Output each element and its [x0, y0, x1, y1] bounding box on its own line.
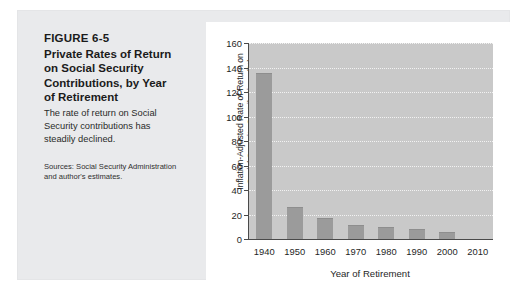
gridline — [249, 166, 493, 167]
figure-source: Sources: Social Security Administration … — [44, 162, 178, 183]
y-axis-tick-label: 100 — [226, 111, 242, 122]
gridline — [249, 190, 493, 191]
x-axis-tick-label: 1980 — [376, 246, 397, 257]
y-axis-tick-label: 0 — [237, 234, 242, 245]
plot-area: 020406080100120140160 194019501960197019… — [248, 43, 493, 240]
y-axis-tick-label: 20 — [232, 209, 242, 220]
figure-description: The rate of return on Social Security co… — [44, 107, 180, 147]
y-axis-tick-label: 160 — [226, 38, 242, 49]
y-axis-tick-label: 40 — [232, 185, 242, 196]
figure-caption-column: FIGURE 6-5 Private Rates of Return on So… — [44, 31, 194, 283]
gridline — [249, 68, 493, 69]
y-axis-tick-label: 60 — [232, 160, 242, 171]
gridline — [249, 43, 493, 44]
bar — [256, 73, 272, 239]
y-axis-tick-mark — [244, 92, 249, 93]
figure-root: FIGURE 6-5 Private Rates of Return on So… — [0, 0, 527, 300]
y-axis-tick-mark — [244, 190, 249, 191]
y-axis-tick-mark — [244, 215, 249, 216]
y-axis-tick-mark — [244, 141, 249, 142]
bar — [348, 225, 364, 239]
gridline — [249, 215, 493, 216]
x-axis-title: Year of Retirement — [248, 268, 492, 279]
chart-panel: Inflation-Adjusted Rate of Return on Soc… — [206, 22, 527, 290]
x-axis-tick-label: 1970 — [345, 246, 366, 257]
bar — [287, 207, 303, 239]
x-axis-tick-label: 2010 — [467, 246, 488, 257]
x-axis-tick-label: 1990 — [406, 246, 427, 257]
figure-panel: FIGURE 6-5 Private Rates of Return on So… — [18, 11, 509, 279]
figure-number: FIGURE 6-5 — [44, 31, 194, 46]
figure-title: Private Rates of Return on Social Securi… — [44, 47, 176, 105]
x-axis-tick-label: 1950 — [284, 246, 305, 257]
y-axis-tick-mark — [244, 68, 249, 69]
gridline — [249, 117, 493, 118]
y-axis-tick-label: 140 — [226, 62, 242, 73]
y-axis-tick-mark — [244, 239, 249, 240]
y-axis-tick-mark — [244, 117, 249, 118]
y-axis-tick-label: 80 — [232, 136, 242, 147]
y-axis-tick-mark — [244, 43, 249, 44]
gridline — [249, 92, 493, 93]
y-axis-tick-label: 120 — [226, 87, 242, 98]
y-axis-tick-mark — [244, 166, 249, 167]
bar — [439, 232, 455, 239]
gridline — [249, 141, 493, 142]
bar — [317, 218, 333, 239]
x-axis-tick-label: 2000 — [437, 246, 458, 257]
bar — [409, 229, 425, 239]
x-axis-tick-label: 1960 — [315, 246, 336, 257]
x-axis-tick-label: 1940 — [254, 246, 275, 257]
bar — [378, 227, 394, 239]
